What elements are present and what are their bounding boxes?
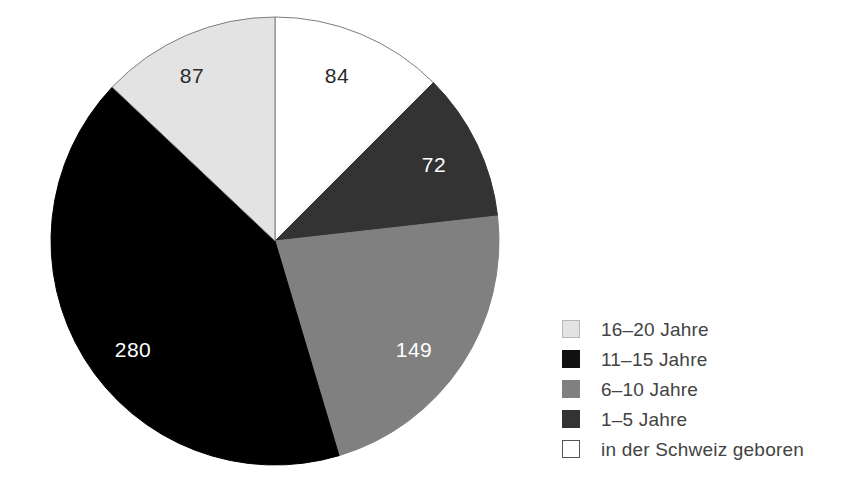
- legend-item[interactable]: 11–15 Jahre: [562, 344, 844, 374]
- pie-slice-value-label: 149: [396, 338, 433, 361]
- legend-item[interactable]: 16–20 Jahre: [562, 314, 844, 344]
- pie-slice-value-label: 280: [115, 338, 152, 361]
- pie-slice-group: [51, 17, 499, 465]
- pie-slice-value-label: 84: [325, 64, 349, 87]
- legend-color-swatch: [562, 440, 580, 458]
- pie-chart-canvas: 847214928087: [0, 0, 560, 499]
- legend-item-label: 16–20 Jahre: [601, 320, 709, 339]
- legend-item[interactable]: 1–5 Jahre: [562, 404, 844, 434]
- legend-item-label: 11–15 Jahre: [601, 350, 707, 369]
- legend-color-swatch: [562, 320, 580, 338]
- legend-item[interactable]: in der Schweiz geboren: [562, 434, 844, 464]
- legend-color-swatch: [562, 350, 580, 368]
- legend-item-label: 1–5 Jahre: [601, 410, 687, 429]
- legend-item-label: 6–10 Jahre: [601, 380, 698, 399]
- pie-slice-value-label: 87: [180, 64, 204, 87]
- pie-slice-value-label: 72: [422, 153, 446, 176]
- legend-color-swatch: [562, 380, 580, 398]
- legend-item-label: in der Schweiz geboren: [601, 440, 804, 459]
- pie-chart: 847214928087 16–20 Jahre11–15 Jahre6–10 …: [0, 0, 849, 499]
- legend-item[interactable]: 6–10 Jahre: [562, 374, 844, 404]
- chart-legend: 16–20 Jahre11–15 Jahre6–10 Jahre1–5 Jahr…: [562, 314, 844, 464]
- legend-color-swatch: [562, 410, 580, 428]
